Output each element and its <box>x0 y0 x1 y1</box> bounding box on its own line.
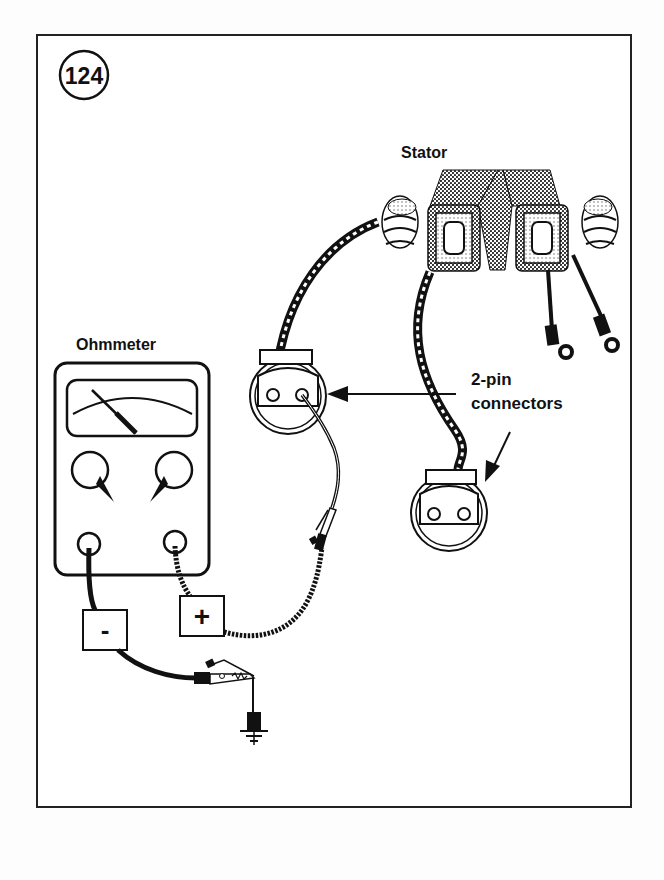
stator-label: Stator <box>401 144 447 161</box>
figure-number-badge: 124 <box>60 51 108 99</box>
stator-cable-right <box>418 272 463 470</box>
ohmmeter <box>55 363 209 575</box>
negative-sign: - <box>101 615 110 645</box>
wiring-diagram: 124 Stator <box>0 0 664 880</box>
jack-positive[interactable] <box>164 531 186 553</box>
positive-alligator-clip <box>309 508 336 551</box>
positive-sign: + <box>194 601 210 632</box>
stator-coil-right <box>582 196 618 248</box>
ground-icon <box>240 712 268 745</box>
connectors-label-line2: connectors <box>471 394 563 413</box>
stator-coil-left <box>382 196 418 248</box>
figure-number: 124 <box>65 63 104 89</box>
connector-left <box>250 350 326 434</box>
negative-alligator-clip <box>194 659 254 684</box>
connectors-label-line1: 2-pin <box>471 370 512 389</box>
connector-right <box>411 470 487 551</box>
ohmmeter-label: Ohmmeter <box>76 336 156 353</box>
